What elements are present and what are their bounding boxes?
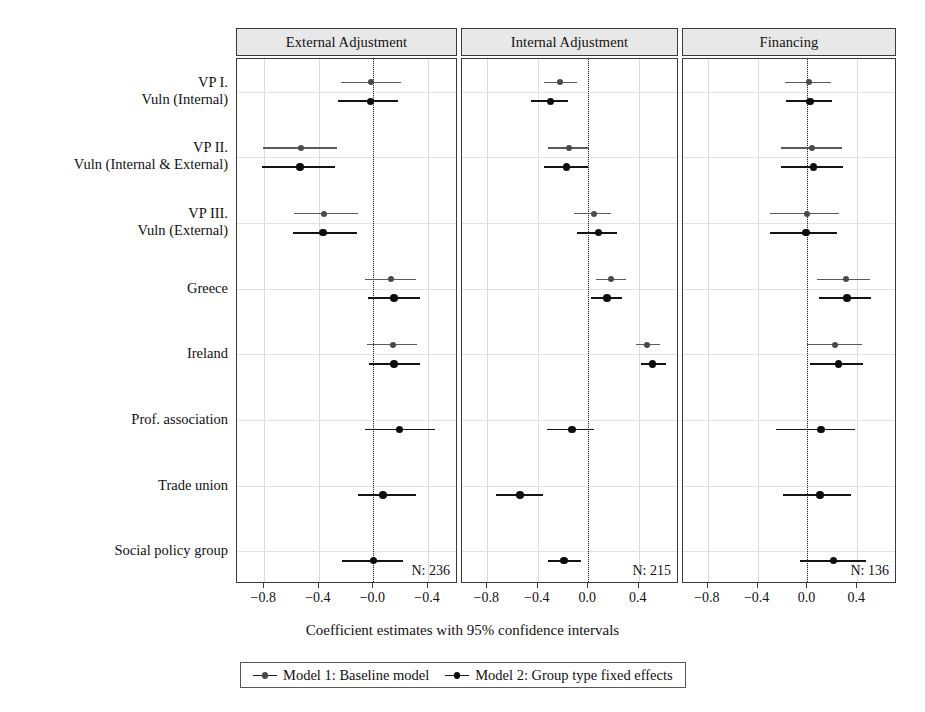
legend-marker-icon: [253, 671, 277, 679]
sample-size-label: N: 236: [412, 563, 451, 579]
x-tick-label: −0.4: [305, 590, 330, 606]
point-estimate-marker: [591, 211, 597, 217]
vertical-gridline: [857, 59, 858, 582]
point-estimate-marker: [595, 229, 603, 237]
plot-area-internal-adjustment: N: 215: [461, 58, 678, 583]
point-estimate-marker: [830, 557, 838, 565]
point-estimate-marker: [319, 229, 327, 237]
panel-header-label: Internal Adjustment: [511, 34, 628, 51]
horizontal-gridline: [237, 551, 456, 552]
x-axis-title: Coefficient estimates with 95% confidenc…: [0, 622, 925, 639]
x-tick-label: −0.4: [414, 590, 439, 606]
panel-header-label: External Adjustment: [286, 34, 408, 51]
horizontal-gridline: [462, 551, 677, 552]
horizontal-gridline: [462, 486, 677, 487]
x-tick-label: −0.4: [744, 590, 769, 606]
row-label-line: VP II.: [74, 139, 228, 156]
x-tick-label: −0.0: [360, 590, 385, 606]
legend-item-m2[interactable]: Model 2: Group type fixed effects: [445, 667, 672, 684]
horizontal-gridline: [237, 420, 456, 421]
point-estimate-marker: [379, 491, 387, 499]
horizontal-gridline: [237, 157, 456, 158]
point-estimate-marker: [557, 79, 563, 85]
horizontal-gridline: [683, 420, 895, 421]
point-estimate-marker: [516, 491, 524, 499]
point-estimate-marker: [603, 294, 611, 302]
horizontal-gridline: [462, 354, 677, 355]
legend-item-m1[interactable]: Model 1: Baseline model: [253, 667, 429, 684]
row-label-line: Prof. association: [131, 410, 228, 427]
horizontal-gridline: [683, 551, 895, 552]
zero-reference-line: [807, 59, 808, 582]
point-estimate-marker: [390, 342, 396, 348]
x-tick-label: −0.8: [251, 590, 276, 606]
row-label-line: VP III.: [137, 205, 228, 222]
horizontal-gridline: [237, 354, 456, 355]
confidence-interval-bar: [776, 429, 854, 431]
row-label-7: Trade union: [158, 476, 228, 493]
point-estimate-marker: [810, 163, 818, 171]
point-estimate-marker: [608, 276, 614, 282]
horizontal-gridline: [683, 289, 895, 290]
point-estimate-marker: [370, 557, 378, 565]
point-estimate-marker: [806, 98, 814, 106]
panel-header-internal-adjustment: Internal Adjustment: [461, 28, 678, 56]
horizontal-gridline: [237, 486, 456, 487]
row-label-line: Trade union: [158, 476, 228, 493]
point-estimate-marker: [560, 557, 568, 565]
plot-area-external-adjustment: N: 236: [236, 58, 457, 583]
panel-header-external-adjustment: External Adjustment: [236, 28, 457, 56]
legend-marker-icon: [445, 671, 469, 679]
x-tick-mark: [638, 583, 639, 588]
sample-size-label: N: 136: [851, 563, 890, 579]
horizontal-gridline: [237, 223, 456, 224]
x-tick-label: 0.0: [798, 590, 816, 606]
row-label-line: Vuln (Internal & External): [74, 156, 228, 173]
panel-header-label: Financing: [760, 34, 819, 51]
zero-reference-line: [588, 59, 589, 582]
horizontal-gridline: [462, 420, 677, 421]
vertical-gridline: [319, 59, 320, 582]
vertical-gridline: [708, 59, 709, 582]
horizontal-gridline: [683, 92, 895, 93]
point-estimate-marker: [832, 342, 838, 348]
x-tick-label: 0.4: [629, 590, 647, 606]
x-tick-label: −0.8: [474, 590, 499, 606]
vertical-gridline: [264, 59, 265, 582]
row-label-3: VP III.Vuln (External): [137, 205, 228, 239]
horizontal-gridline: [462, 223, 677, 224]
point-estimate-marker: [817, 426, 825, 434]
legend-label: Model 1: Baseline model: [283, 667, 429, 684]
row-label-column: VP I.Vuln (Internal)VP II.Vuln (Internal…: [0, 0, 236, 712]
point-estimate-marker: [816, 491, 824, 499]
horizontal-gridline: [683, 223, 895, 224]
sample-size-label: N: 215: [633, 563, 672, 579]
coefficient-plot-figure: VP I.Vuln (Internal)VP II.Vuln (Internal…: [0, 0, 925, 712]
point-estimate-marker: [568, 426, 576, 434]
x-tick-label: −0.8: [694, 590, 719, 606]
row-label-line: Social policy group: [114, 542, 228, 559]
zero-reference-line: [373, 59, 374, 582]
point-estimate-marker: [806, 79, 812, 85]
x-tick-mark: [806, 583, 807, 588]
x-tick-mark: [707, 583, 708, 588]
row-label-line: VP I.: [142, 74, 229, 91]
panel-header-financing: Financing: [682, 28, 896, 56]
x-tick-mark: [427, 583, 428, 588]
point-estimate-marker: [649, 360, 657, 368]
point-estimate-marker: [321, 211, 327, 217]
x-tick-label: 0.4: [847, 590, 865, 606]
x-tick-mark: [587, 583, 588, 588]
row-label-2: VP II.Vuln (Internal & External): [74, 139, 228, 173]
horizontal-gridline: [683, 354, 895, 355]
row-label-line: Ireland: [187, 345, 228, 362]
vertical-gridline: [538, 59, 539, 582]
vertical-gridline: [487, 59, 488, 582]
horizontal-gridline: [683, 486, 895, 487]
point-estimate-marker: [390, 360, 398, 368]
x-tick-label: 0.0: [578, 590, 596, 606]
point-estimate-marker: [644, 342, 650, 348]
x-tick-mark: [486, 583, 487, 588]
point-estimate-marker: [547, 98, 555, 106]
point-estimate-marker: [298, 145, 304, 151]
